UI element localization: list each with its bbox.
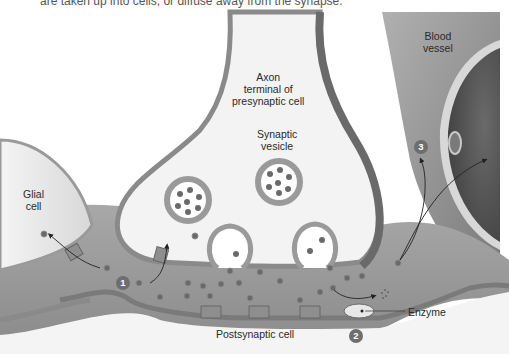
receptors <box>201 306 320 318</box>
glial-cell-label: Glial cell <box>23 188 44 212</box>
step-1-badge: 1 <box>116 276 130 290</box>
synapse-diagram: are taken up into cells, or diffuse away… <box>0 0 509 354</box>
blood-label-line2: vessel <box>423 42 453 54</box>
axon-label-line2: terminal of <box>232 83 304 95</box>
blood-label-line1: Blood <box>423 30 453 42</box>
step-3-badge: 3 <box>414 140 428 154</box>
enzyme-label: Enzyme <box>408 306 446 318</box>
axon-terminal-label: Axon terminal of presynaptic cell <box>232 71 304 107</box>
caption-fragment: are taken up into cells, or diffuse away… <box>40 0 343 8</box>
axon-label-line3: presynaptic cell <box>232 95 304 107</box>
glial-cell <box>0 140 92 270</box>
vesicle <box>258 161 300 203</box>
step-2-badge: 2 <box>349 329 363 343</box>
fusing-vesicle <box>209 226 250 268</box>
glial-label-line1: Glial <box>23 188 44 200</box>
glial-label-line2: cell <box>23 200 44 212</box>
fusing-vesicle <box>294 224 335 268</box>
axon-label-line1: Axon <box>232 71 304 83</box>
synaptic-vesicle-label: Synaptic vesicle <box>257 128 297 152</box>
axon-terminal <box>117 12 379 266</box>
vesicle <box>167 179 209 221</box>
postsynaptic-cell-label: Postsynaptic cell <box>216 328 294 340</box>
vesicle-label-line1: Synaptic <box>257 128 297 140</box>
blood-vessel-label: Blood vessel <box>423 30 453 54</box>
vesicle-label-line2: vesicle <box>257 140 297 152</box>
